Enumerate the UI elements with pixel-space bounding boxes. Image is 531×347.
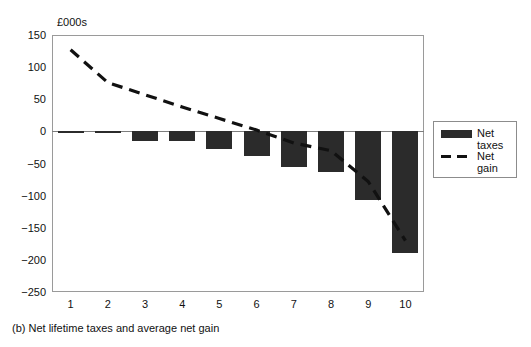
y-axis-tick-label: 100 — [6, 62, 46, 73]
x-axis-tick-label: 8 — [328, 299, 334, 310]
line-series-net-gain — [52, 35, 424, 292]
x-axis-tick-label: 7 — [291, 299, 297, 310]
y-axis-tick-label: 150 — [6, 30, 46, 41]
legend-item-net-gain: Net gain — [441, 151, 498, 174]
y-axis-unit-label: £000s — [57, 16, 87, 29]
x-axis-tick-label: 3 — [142, 299, 148, 310]
x-axis-tick-label: 9 — [365, 299, 371, 310]
y-axis-tick-label: −250 — [6, 287, 46, 298]
chart-legend: Net taxes Net gain — [433, 121, 517, 178]
legend-dashed-line-icon — [441, 151, 472, 162]
x-axis-tick-label: 6 — [254, 299, 260, 310]
figure-caption: (b) Net lifetime taxes and average net g… — [12, 322, 219, 335]
legend-bar-swatch-icon — [441, 130, 472, 138]
y-axis-tick-label: 50 — [6, 94, 46, 105]
y-axis-tick-label: −100 — [6, 190, 46, 201]
y-axis-tick-label: 0 — [6, 126, 46, 137]
y-axis-tick-label: −50 — [6, 158, 46, 169]
legend-label-net-taxes: Net taxes — [477, 128, 503, 151]
x-axis-tick-label: 10 — [399, 299, 411, 310]
x-axis-tick-label: 1 — [68, 299, 74, 310]
y-axis-tick-label: −200 — [6, 254, 46, 265]
chart-figure: £000s 150100500−50−100−150−200−250 12345… — [0, 0, 531, 347]
legend-item-net-taxes: Net taxes — [441, 128, 503, 151]
plot-area: 150100500−50−100−150−200−250 12345678910 — [52, 35, 424, 292]
y-axis-tick-label: −150 — [6, 222, 46, 233]
legend-label-net-gain: Net gain — [477, 151, 498, 174]
x-axis-tick-label: 4 — [179, 299, 185, 310]
x-axis-tick-label: 5 — [216, 299, 222, 310]
x-axis-tick-label: 2 — [105, 299, 111, 310]
